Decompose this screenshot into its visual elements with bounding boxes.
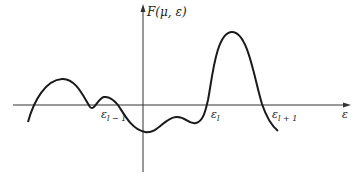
function-curve [28,32,278,132]
y-axis-arrow-icon [141,4,146,12]
x-axis-label: ε [342,108,348,121]
y-axis-label: F(μ, ε) [147,5,187,19]
epsilon-l-label: εl [211,108,219,123]
function-plot [0,0,359,181]
epsilon-l-plus-1-label: εl + 1 [272,108,297,123]
x-axis-arrow-icon [343,103,351,108]
epsilon-l-minus-1-label: εl − 1 [101,108,126,123]
